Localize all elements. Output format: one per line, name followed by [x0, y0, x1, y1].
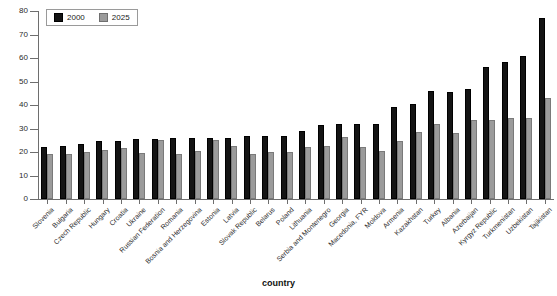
bar-group	[370, 11, 388, 199]
bar-group	[407, 11, 425, 199]
bar-group	[333, 11, 351, 199]
y-tick-mark	[30, 82, 38, 83]
y-tick-label: 60	[4, 54, 28, 62]
y-tick-mark	[30, 152, 38, 153]
x-tick-mark	[453, 199, 454, 204]
y-tick-label: 40	[4, 101, 28, 109]
bar-group	[75, 11, 93, 199]
y-tick-mark	[30, 58, 38, 59]
x-tick-mark	[195, 199, 196, 204]
y-tick-mark	[30, 129, 38, 130]
bar-group	[185, 11, 203, 199]
bar-group	[351, 11, 369, 199]
bar-2025-armenia	[397, 141, 403, 199]
x-tick-mark	[66, 199, 67, 204]
bar-2025-hungary	[102, 150, 108, 199]
x-tick-mark	[287, 199, 288, 204]
x-tick-mark	[508, 199, 509, 204]
x-tick-mark	[121, 199, 122, 204]
y-tick-label: 0	[4, 195, 28, 203]
bar-group	[462, 11, 480, 199]
bar-2025-bosnia-and-herzegovina	[195, 151, 201, 199]
y-tick-mark	[30, 105, 38, 106]
x-axis-line	[38, 199, 554, 200]
bar-2025-macedonia-fyr	[360, 147, 366, 199]
bar-2025-lithuania	[305, 147, 311, 199]
bar-2025-uzbekistan	[526, 118, 532, 199]
y-tick-label: 80	[4, 7, 28, 15]
bar-group	[278, 11, 296, 199]
bar-group	[443, 11, 461, 199]
x-tick-mark	[232, 199, 233, 204]
y-tick-mark	[30, 176, 38, 177]
bar-2025-kazakhstan	[416, 132, 422, 199]
bar-group	[93, 11, 111, 199]
bar-2025-kyrgyz-republic	[489, 120, 495, 199]
bar-group	[480, 11, 498, 199]
bar-2025-belarus	[268, 152, 274, 199]
bar-2025-croatia	[121, 148, 127, 199]
bar-2025-russian-federation	[158, 140, 164, 199]
y-tick-label: 10	[4, 172, 28, 180]
bar-2025-azerbaijan	[471, 120, 477, 199]
x-tick-mark	[342, 199, 343, 204]
bar-group	[167, 11, 185, 199]
bar-group	[296, 11, 314, 199]
bar-2025-tajikistan	[545, 98, 551, 199]
bar-2025-poland	[287, 152, 293, 199]
bar-2025-bulgaria	[66, 154, 72, 199]
x-tick-mark	[361, 199, 362, 204]
x-tick-mark	[139, 199, 140, 204]
y-tick-label: 30	[4, 125, 28, 133]
x-tick-mark	[434, 199, 435, 204]
x-tick-mark	[490, 199, 491, 204]
bar-2025-czech-republic	[84, 152, 90, 199]
bar-2025-latvia	[231, 146, 237, 199]
x-tick-mark	[176, 199, 177, 204]
bar-2025-serbia-and-montenegro	[324, 146, 330, 199]
bar-group	[499, 11, 517, 199]
x-tick-mark	[324, 199, 325, 204]
bar-group	[149, 11, 167, 199]
y-tick-mark	[30, 11, 38, 12]
bar-group	[222, 11, 240, 199]
x-tick-mark	[379, 199, 380, 204]
y-tick-label: 20	[4, 148, 28, 156]
bar-2025-slovak-republic	[250, 154, 256, 199]
x-tick-mark	[47, 199, 48, 204]
bar-2025-moldova	[379, 151, 385, 199]
x-tick-mark	[250, 199, 251, 204]
x-tick-mark	[416, 199, 417, 204]
bar-group	[38, 11, 56, 199]
bars-layer	[38, 11, 554, 199]
bar-group	[425, 11, 443, 199]
bar-group	[388, 11, 406, 199]
bar-group	[536, 11, 554, 199]
bar-group	[314, 11, 332, 199]
bar-2025-turkey	[434, 124, 440, 199]
y-tick-label: 50	[4, 78, 28, 86]
bar-group	[204, 11, 222, 199]
x-tick-mark	[158, 199, 159, 204]
bar-group	[130, 11, 148, 199]
bar-2025-albania	[453, 133, 459, 199]
bar-2025-ukraine	[139, 153, 145, 199]
bar-group	[241, 11, 259, 199]
bar-2025-georgia	[342, 137, 348, 199]
x-tick-mark	[84, 199, 85, 204]
x-tick-mark	[103, 199, 104, 204]
x-tick-mark	[471, 199, 472, 204]
y-tick-mark	[30, 35, 38, 36]
bar-2025-romania	[176, 154, 182, 199]
x-tick-mark	[397, 199, 398, 204]
bar-2025-estonia	[213, 140, 219, 199]
y-tick-label: 70	[4, 31, 28, 39]
x-tick-mark	[526, 199, 527, 204]
x-tick-mark	[545, 199, 546, 204]
bar-2025-turkmenistan	[508, 118, 514, 199]
x-tick-mark	[305, 199, 306, 204]
bar-group	[56, 11, 74, 199]
bar-group	[517, 11, 535, 199]
bar-group	[112, 11, 130, 199]
bar-2025-slovenia	[47, 154, 53, 199]
